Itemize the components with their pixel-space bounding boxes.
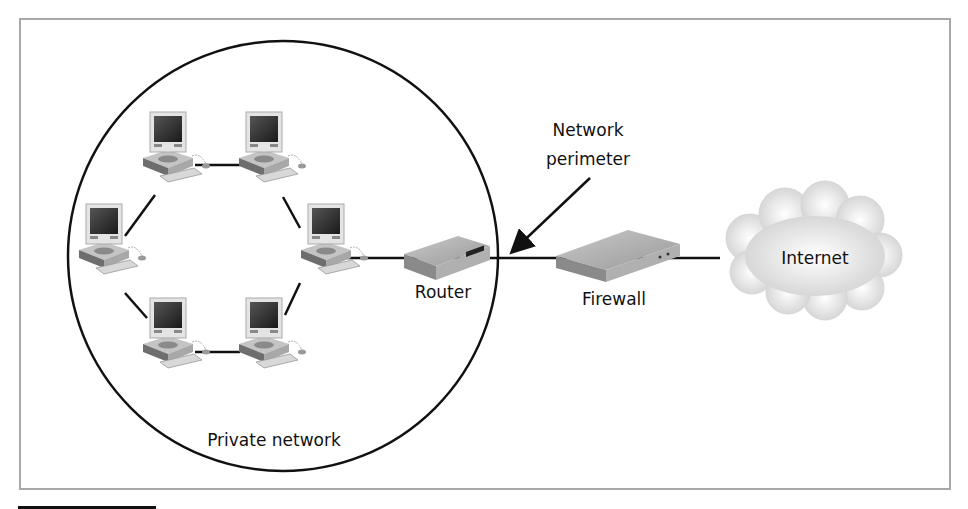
private-network-label: Private network [207, 430, 341, 450]
computer-icon [239, 112, 306, 182]
perimeter-arrow [513, 178, 590, 251]
firewall-device [556, 230, 680, 282]
link-pc4-pc1 [125, 195, 155, 236]
link-pc2-pc3 [283, 197, 300, 228]
computer-icon [143, 298, 210, 368]
computer-icon [301, 204, 368, 274]
computer-icon [239, 298, 306, 368]
perimeter-label-line1: Network [553, 120, 624, 140]
router-label: Router [415, 282, 471, 302]
router-device [404, 236, 490, 280]
computer-icon [79, 204, 146, 274]
internet-label: Internet [781, 248, 849, 268]
link-pc3-pc6 [285, 283, 300, 315]
firewall-label: Firewall [582, 289, 646, 309]
link-pc5-pc4 [125, 293, 147, 318]
perimeter-label-line2: perimeter [546, 149, 630, 169]
computer-icon [143, 112, 210, 182]
